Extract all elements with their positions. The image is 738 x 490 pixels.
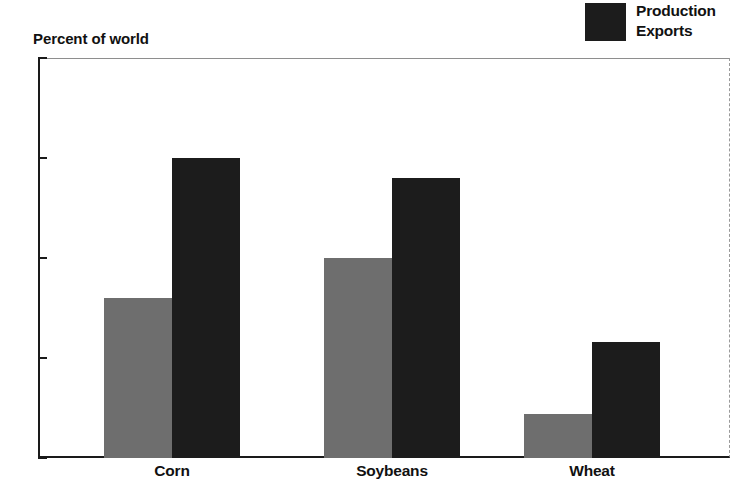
bar-corn-exports [172, 158, 240, 458]
bar-wheat-exports [592, 342, 660, 458]
bar-soybeans-production [324, 258, 392, 458]
bar-wheat-production [524, 414, 592, 458]
bar-soybeans-exports [392, 178, 460, 458]
x-axis-label-soybeans: Soybeans [284, 462, 500, 480]
bar-chart: Production Exports Percent of world 0255… [0, 0, 738, 490]
bar-series-layer [0, 0, 738, 490]
x-axis-label-corn: Corn [64, 462, 280, 480]
bar-corn-production [104, 298, 172, 458]
x-axis-label-wheat: Wheat [484, 462, 700, 480]
